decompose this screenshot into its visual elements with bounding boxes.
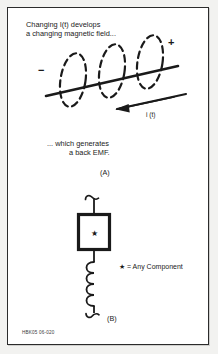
component-legend-label: ★ = Any Component <box>119 263 183 272</box>
figure-reference-code: HBK05 06-020 <box>22 330 55 336</box>
figure-page: ★ Changing I(t) develops a changing magn… <box>0 0 218 354</box>
caption-middle: ... which generates a back EMF. <box>47 139 110 158</box>
panel-a-label: (A) <box>100 168 110 177</box>
current-label: i (t) <box>146 111 156 119</box>
polarity-plus-label: + <box>168 36 174 50</box>
caption-middle-line-1: ... which generates <box>47 139 110 148</box>
caption-middle-line-2: a back EMF. <box>47 148 110 157</box>
polarity-minus-label: − <box>38 64 44 78</box>
caption-top: Changing I(t) develops a changing magnet… <box>26 20 116 39</box>
caption-top-line-1: Changing I(t) develops <box>26 20 116 29</box>
panel-b-label: (B) <box>107 314 117 323</box>
caption-top-line-2: a changing magnetic field... <box>26 29 116 38</box>
